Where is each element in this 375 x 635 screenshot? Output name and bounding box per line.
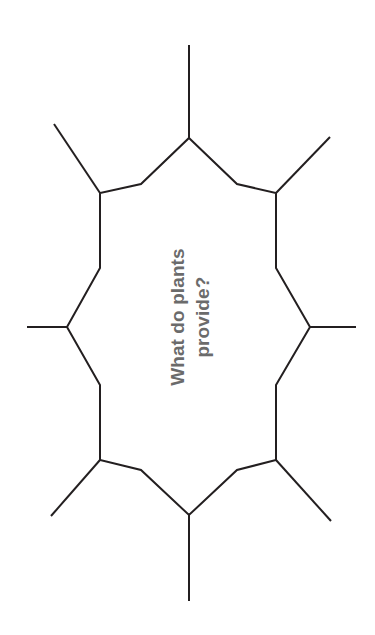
concept-web-diagram [0, 0, 375, 635]
center-octagon-outline[interactable] [67, 138, 310, 515]
concept-web-worksheet: What do plants provide? [0, 0, 375, 635]
